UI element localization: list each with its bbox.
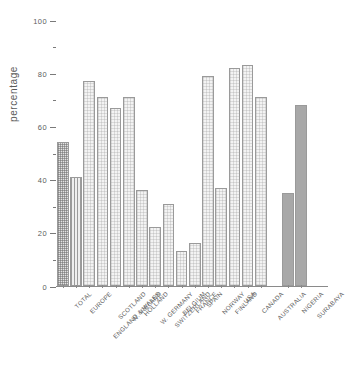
bar [57, 142, 69, 286]
x-tick-mark [195, 285, 196, 288]
x-tick-mark [76, 285, 77, 288]
bar [163, 204, 175, 286]
x-tick-mark [63, 285, 64, 288]
bar [202, 76, 214, 286]
x-tick-mark [248, 285, 249, 288]
x-tick-mark [261, 285, 262, 288]
x-axis-labels: TOTALEUROPEENGLAND & WALESSCOTLANDN. IRE… [56, 288, 335, 370]
y-tick-label: 100 [33, 17, 47, 26]
bar [110, 108, 122, 286]
bar [83, 81, 95, 286]
y-tick-label: 20 [38, 229, 47, 238]
x-tick-mark [208, 285, 209, 288]
y-tick-label: 0 [42, 283, 47, 292]
x-tick-mark [155, 285, 156, 288]
bar [123, 97, 135, 286]
bar [282, 193, 294, 286]
x-tick-mark [129, 285, 130, 288]
bar [229, 68, 241, 286]
x-tick-mark [301, 285, 302, 288]
bar [215, 188, 227, 286]
y-axis: 020406080100 [0, 0, 56, 370]
bar [149, 227, 161, 286]
x-tick-mark [142, 285, 143, 288]
x-tick-mark [234, 285, 235, 288]
x-tick-mark [89, 285, 90, 288]
x-tick-mark [182, 285, 183, 288]
x-tick-mark [168, 285, 169, 288]
plot-area [56, 21, 328, 287]
bar [295, 105, 307, 286]
bar [136, 190, 148, 286]
x-tick-mark [102, 285, 103, 288]
y-tick-label: 60 [38, 123, 47, 132]
y-tick-label: 40 [38, 176, 47, 185]
bar [70, 177, 82, 286]
bar [189, 243, 201, 286]
x-tick-mark [116, 285, 117, 288]
x-tick-mark [288, 285, 289, 288]
x-tick-mark [221, 285, 222, 288]
bar [242, 65, 254, 286]
bar [97, 97, 109, 286]
bar [255, 97, 267, 286]
y-tick-label: 80 [38, 70, 47, 79]
bar [176, 251, 188, 286]
